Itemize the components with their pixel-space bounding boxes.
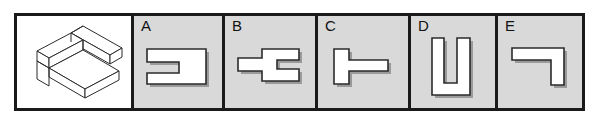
option-figure-wrap-c [318, 16, 408, 108]
stem-figure-wrap [17, 16, 131, 108]
u-shape-upright-icon [430, 36, 476, 100]
sideways-t-shape-icon [332, 47, 394, 89]
option-figure-wrap-e [498, 16, 582, 108]
isometric-l-shaped-bar-solid-icon [19, 20, 129, 104]
rectangle-with-left-slot-notch-icon [145, 47, 211, 89]
option-cell-c[interactable]: C [318, 16, 411, 108]
option-cell-b[interactable]: B [225, 16, 318, 108]
question-panel: A B C D [14, 13, 585, 111]
stem-cell [17, 16, 134, 108]
l-shape-corner-icon [510, 46, 570, 90]
option-figure-wrap-d [411, 16, 495, 108]
option-cell-d[interactable]: D [411, 16, 498, 108]
double-stepped-cross-notch-icon [236, 47, 304, 89]
option-figure-wrap-a [134, 16, 222, 108]
option-figure-wrap-b [225, 16, 315, 108]
option-cell-a[interactable]: A [134, 16, 225, 108]
option-cell-e[interactable]: E [498, 16, 582, 108]
